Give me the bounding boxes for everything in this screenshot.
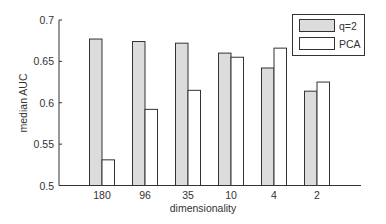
x-ticks-group: 18096351042	[93, 189, 320, 201]
legend-swatch-q2	[300, 20, 335, 32]
legend-swatch-pca	[300, 38, 335, 50]
x-tick-label: 96	[139, 189, 151, 201]
x-tick-label: 10	[225, 189, 237, 201]
x-tick-label: 35	[182, 189, 194, 201]
bar-q2-96	[133, 42, 146, 186]
bar-q2-10	[219, 53, 232, 185]
y-tick-label: 0.6	[39, 97, 54, 109]
bar-pca-10	[231, 57, 244, 185]
x-axis-label: dimensionality	[170, 202, 237, 214]
legend-label-pca: PCA	[339, 38, 361, 50]
bar-pca-96	[145, 109, 158, 185]
y-tick-label: 0.7	[39, 14, 54, 26]
bar-q2-180	[90, 39, 103, 185]
bar-q2-2	[305, 91, 318, 185]
bar-pca-4	[274, 48, 287, 185]
y-tick-label: 0.65	[34, 55, 55, 67]
bar-pca-180	[102, 160, 115, 186]
bar-pca-2	[317, 82, 330, 185]
bars-group	[90, 39, 330, 185]
y-tick-label: 0.5	[39, 180, 54, 192]
legend-label-q2: q=2	[339, 20, 357, 32]
x-tick-label: 2	[314, 189, 320, 201]
legend: q=2 PCA	[293, 15, 365, 56]
bar-q2-35	[176, 43, 189, 185]
x-tick-label: 180	[93, 189, 111, 201]
y-tick-label: 0.55	[34, 138, 55, 150]
bar-q2-4	[262, 68, 275, 186]
x-tick-label: 4	[271, 189, 277, 201]
y-ticks-group: 0.50.550.60.650.7	[34, 14, 62, 192]
bar-pca-35	[188, 90, 201, 185]
bar-chart: 0.50.550.60.650.7 18096351042 dimensiona…	[0, 0, 386, 224]
y-axis-label: median AUC	[17, 73, 29, 132]
